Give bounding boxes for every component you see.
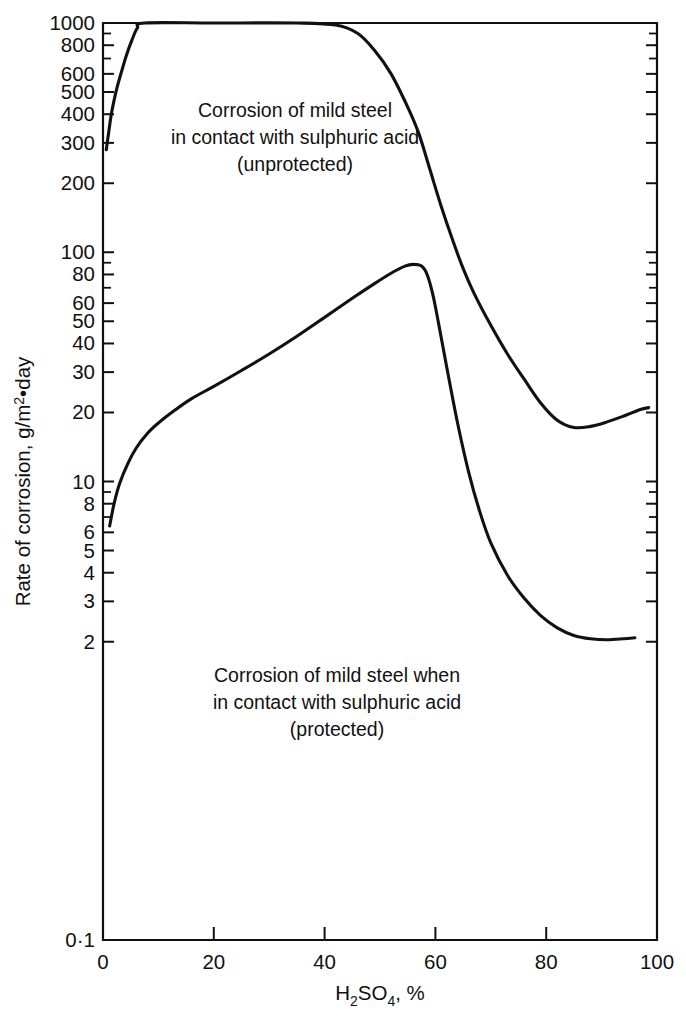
y-tick-label: 1000 — [49, 11, 95, 34]
annotation-line: in contact with sulphuric acid — [171, 126, 419, 148]
y-tick-label: 800 — [61, 33, 95, 56]
x-tick-label: 60 — [424, 950, 447, 973]
x-tick-label: 40 — [313, 950, 336, 973]
x-tick-label: 80 — [535, 950, 558, 973]
y-tick-label: 200 — [61, 171, 95, 194]
y-tick-label: 60 — [72, 291, 95, 314]
protected-label: Corrosion of mild steel whenin contact w… — [213, 664, 461, 740]
axes-group — [103, 23, 657, 940]
y-tick-label: 30 — [72, 360, 95, 383]
y-tick-labels: 0·12345681020304050608010020030040050060… — [49, 11, 95, 951]
y-tick-label: 10 — [72, 470, 95, 493]
x-axis-title: H2SO4, % — [335, 981, 425, 1009]
annotation-line: Corrosion of mild steel — [198, 99, 392, 121]
y-tick-label: 300 — [61, 131, 95, 154]
unprotected-label: Corrosion of mild steelin contact with s… — [171, 99, 419, 175]
y-tick-label: 2 — [84, 630, 95, 653]
y-tick-label: 400 — [61, 102, 95, 125]
x-tick-label: 20 — [202, 950, 225, 973]
y-tick-label: 600 — [61, 62, 95, 85]
annotation-line: (protected) — [290, 718, 384, 740]
annotation-line: (unprotected) — [237, 153, 353, 175]
chart-canvas: 0·12345681020304050608010020030040050060… — [0, 0, 686, 1020]
x-tick-label: 100 — [640, 950, 674, 973]
y-axis-title: Rate of corrosion, g/m2•day — [11, 356, 34, 606]
x-tick-label: 0 — [97, 950, 108, 973]
curve-unprotected — [106, 23, 648, 428]
y-tick-label: 0·1 — [65, 928, 95, 951]
curve-protected — [110, 264, 635, 639]
annotation-line: in contact with sulphuric acid — [213, 691, 461, 713]
annotation-line: Corrosion of mild steel when — [214, 664, 460, 686]
y-tick-label: 80 — [72, 262, 95, 285]
y-tick-label: 4 — [84, 561, 95, 584]
y-tick-label: 40 — [72, 331, 95, 354]
corrosion-rate-chart: 0·12345681020304050608010020030040050060… — [0, 0, 686, 1020]
plot-frame — [103, 23, 657, 940]
x-tick-labels: 020406080100 — [97, 950, 674, 973]
curve-annotations: Corrosion of mild steelin contact with s… — [171, 99, 461, 740]
y-tick-label: 8 — [84, 492, 95, 515]
y-tick-label: 100 — [61, 240, 95, 263]
ticks-group — [103, 23, 657, 940]
y-tick-label: 6 — [84, 520, 95, 543]
y-tick-label: 3 — [84, 589, 95, 612]
y-tick-label: 20 — [72, 400, 95, 423]
